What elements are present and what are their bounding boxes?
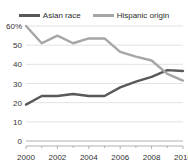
gridlines [26,26,183,141]
y-tick-label-50: 50 [13,41,22,50]
x-tick-label-2008: 2008 [143,153,161,162]
y-tick-label-0: 0 [18,137,23,146]
legend-label-asian-race: Asian race [43,11,81,20]
chart-canvas: 0102030405060% 200020022004200620082010 [0,22,188,166]
y-tick-label-20: 20 [13,99,22,108]
y-tick-label-40: 40 [13,60,22,69]
x-tick-label-2006: 2006 [111,153,129,162]
chart-legend: Asian race Hispanic origin [0,7,188,23]
y-tick-label-30: 30 [13,80,22,89]
x-tick-label-2000: 2000 [17,153,35,162]
legend-item-hispanic-origin[interactable]: Hispanic origin [93,11,169,20]
y-tick-label-10: 10 [13,118,22,127]
plot-area: 0102030405060% 200020022004200620082010 [0,22,188,166]
legend-swatch-asian-race [19,14,40,17]
x-axis [26,146,183,149]
legend-label-hispanic-origin: Hispanic origin [117,11,169,20]
x-tick-label-2002: 2002 [49,153,67,162]
legend-item-asian-race[interactable]: Asian race [19,11,81,20]
line-chart: Asian race Hispanic origin 0102030405060… [0,0,188,166]
x-tick-label-2004: 2004 [80,153,98,162]
y-tick-label-60: 60% [6,22,22,31]
y-axis-tick-labels: 0102030405060% [6,22,23,146]
x-axis-tick-labels: 200020022004200620082010 [17,153,188,162]
legend-swatch-hispanic-origin [93,14,114,17]
series-line-asian-race [26,70,183,105]
data-series-group [26,26,183,105]
x-tick-label-2010: 2010 [174,153,188,162]
